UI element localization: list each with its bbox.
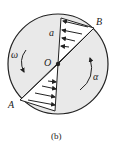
label-b: B: [96, 17, 102, 27]
label-accel: a: [49, 28, 54, 38]
label-alpha: α: [93, 72, 98, 82]
label-o: O: [44, 58, 51, 68]
figure-caption: (b): [51, 132, 62, 141]
label-omega: ω: [11, 50, 18, 60]
label-a: A: [8, 100, 14, 110]
center-point: [56, 62, 60, 66]
